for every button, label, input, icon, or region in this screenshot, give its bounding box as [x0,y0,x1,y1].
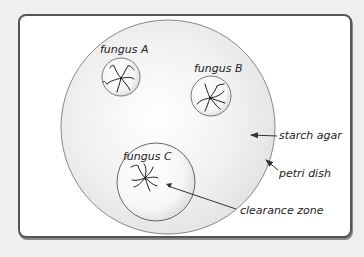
starch-agar-label: starch agar [279,129,343,142]
petri-dish-diagram: fungus A fungus B fungus C starch agar p… [0,0,364,257]
fungus-b-label: fungus B [194,62,243,75]
fungus-c-label: fungus C [123,150,172,163]
petri-dish-label: petri dish [278,167,331,180]
clearance-zone-label: clearance zone [240,204,324,217]
fungus-b-colony [191,76,231,116]
fungus-a-label: fungus A [100,43,149,56]
fungus-a-colony [102,58,140,96]
